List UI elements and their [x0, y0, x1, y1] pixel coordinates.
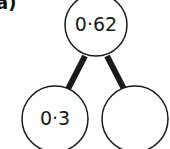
- root-value: 0·62: [66, 13, 126, 35]
- right-node: [102, 86, 168, 149]
- left-branch: [68, 56, 85, 89]
- right-branch: [107, 56, 124, 89]
- left-value: 0·3: [25, 107, 85, 129]
